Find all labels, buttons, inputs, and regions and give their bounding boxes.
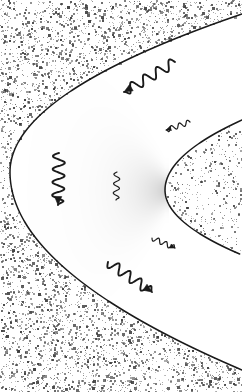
- vector-overlay-layer: [0, 0, 242, 392]
- bow-shock-diagram: [0, 0, 242, 392]
- boundary-curves: [10, 14, 242, 370]
- outer-boundary-curve: [10, 14, 242, 370]
- wavy-squiggle-center: [113, 172, 120, 200]
- inner-boundary-curve: [165, 120, 242, 254]
- wavy-arrows: [52, 59, 190, 292]
- wavy-arrow-upper-arrowhead: [124, 85, 133, 92]
